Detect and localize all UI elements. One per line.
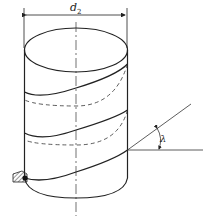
helix-cylinder-diagram (0, 0, 210, 219)
angle-label: λ (160, 134, 166, 144)
diameter-subscript: 2 (77, 8, 81, 16)
cutting-tool (13, 171, 28, 182)
tool-tip (22, 175, 27, 180)
diameter-label: d2 (70, 2, 82, 16)
diameter-symbol: d (70, 1, 77, 14)
